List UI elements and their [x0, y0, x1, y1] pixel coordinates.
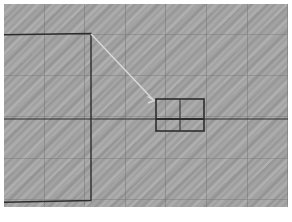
- caption-strip: [0, 207, 292, 222]
- main-outline[interactable]: [4, 34, 91, 203]
- detail-leader-line: [91, 34, 153, 100]
- drawing-viewport[interactable]: [4, 4, 288, 207]
- vector-drawing-layer: [4, 4, 288, 207]
- screenshot-root: [0, 0, 292, 222]
